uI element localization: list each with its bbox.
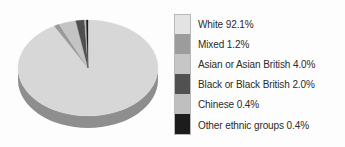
legend-label-white: White 92.1% (198, 19, 254, 30)
legend-item-other-ethnic-groups: Other ethnic groups 0.4% (174, 114, 342, 134)
pie-chart-area (0, 0, 172, 147)
legend-label-chinese: Chinese 0.4% (198, 99, 259, 110)
legend-item-asian-or-asian-british: Asian or Asian British 4.0% (174, 54, 342, 74)
pie-chart-svg (0, 0, 172, 147)
legend-label-other-ethnic-groups: Other ethnic groups 0.4% (198, 119, 309, 130)
legend-swatch-asian-or-asian-british (174, 54, 191, 74)
legend-item-mixed: Mixed 1.2% (174, 34, 342, 54)
legend-item-white: White 92.1% (174, 14, 342, 34)
legend-swatch-other-ethnic-groups (174, 114, 191, 134)
pie-chart-screenshot: White 92.1% Mixed 1.2% Asian or Asian Br… (0, 0, 345, 147)
legend-item-chinese: Chinese 0.4% (174, 94, 342, 114)
legend-item-black-or-black-british: Black or Black British 2.0% (174, 74, 342, 94)
legend-swatch-white (174, 14, 191, 34)
legend-swatch-black-or-black-british (174, 74, 191, 94)
chart-legend: White 92.1% Mixed 1.2% Asian or Asian Br… (174, 14, 342, 135)
legend-swatch-mixed (174, 34, 191, 54)
legend-label-asian-or-asian-british: Asian or Asian British 4.0% (198, 59, 315, 70)
legend-label-mixed: Mixed 1.2% (198, 39, 249, 50)
legend-swatch-chinese (174, 94, 191, 114)
pie-top-faces (18, 20, 158, 116)
legend-label-black-or-black-british: Black or Black British 2.0% (198, 79, 315, 90)
